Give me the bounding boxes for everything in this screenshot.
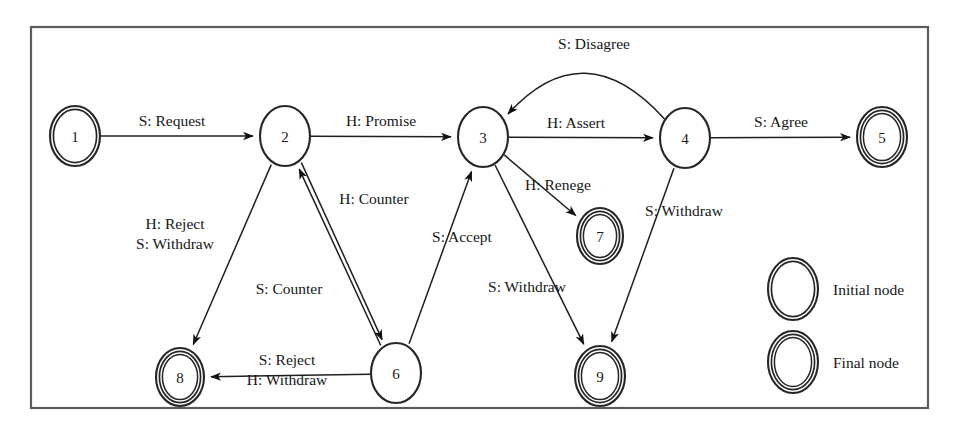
edge-label: H: Renege (525, 176, 591, 193)
edge-2-to-3 (311, 136, 451, 137)
edge-label: S: Withdraw (136, 235, 215, 252)
legend-label: Final node (833, 354, 899, 371)
node-label: 4 (681, 131, 689, 147)
node-label: 7 (596, 229, 604, 245)
legend-initial: Initial node (768, 258, 904, 320)
edge-path (509, 137, 653, 138)
node-8[interactable]: 8 (156, 348, 204, 406)
edge-path (612, 168, 674, 341)
node-2[interactable]: 2 (260, 106, 310, 166)
node-6[interactable]: 6 (371, 343, 421, 403)
node-label: 3 (479, 130, 487, 146)
node-label: 8 (176, 370, 184, 386)
edge-label: S: Counter (256, 280, 324, 297)
edge-path (409, 172, 471, 344)
edge-label: S: Withdraw (488, 278, 567, 295)
edge-4-to-9 (612, 168, 674, 341)
edge-path (508, 73, 664, 119)
edge-path (311, 136, 451, 137)
edge-label: S: Request (139, 112, 206, 129)
legend-layer: Initial nodeFinal node (768, 258, 904, 393)
node-5[interactable]: 5 (857, 107, 907, 167)
legend-final: Final node (768, 331, 899, 393)
legend-initial-ring-2 (771, 261, 814, 316)
legend-label: Initial node (833, 281, 904, 298)
state-diagram: S: RequestH: PromiseH: AssertS: AgreeS: … (0, 0, 959, 434)
edge-label: H: Counter (339, 190, 409, 207)
node-1[interactable]: 1 (50, 106, 100, 166)
node-9[interactable]: 9 (575, 346, 625, 406)
diagram-canvas: S: RequestH: PromiseH: AssertS: AgreeS: … (0, 0, 959, 434)
node-label: 6 (392, 366, 400, 382)
edges-layer: S: RequestH: PromiseH: AssertS: AgreeS: … (101, 35, 850, 388)
edge-label: S: Accept (432, 228, 493, 245)
edge-6-to-3 (409, 172, 471, 344)
node-3[interactable]: 3 (458, 107, 508, 167)
node-4[interactable]: 4 (660, 108, 710, 168)
legend-final-ring-3 (774, 337, 811, 386)
node-label: 1 (71, 129, 79, 145)
node-label: 5 (878, 130, 886, 146)
edge-3-to-4 (509, 137, 653, 138)
node-label: 2 (281, 129, 289, 145)
edge-label: H: Assert (547, 114, 606, 131)
edge-label: S: Agree (754, 113, 808, 130)
edge-2-to-8 (193, 165, 271, 345)
edge-label: H: Withdraw (247, 371, 328, 388)
edge-label: S: Withdraw (645, 202, 724, 219)
edge-4-to-5 (711, 137, 850, 138)
edge-path (711, 137, 850, 138)
edge-label: S: Disagree (558, 35, 630, 52)
node-label: 9 (596, 369, 604, 385)
edge-label: H: Promise (346, 112, 416, 129)
edge-label: H: Reject (146, 215, 206, 232)
edge-4-to-3 (508, 73, 664, 119)
node-7[interactable]: 7 (577, 208, 623, 264)
edge-path (193, 165, 271, 345)
edge-label: S: Reject (259, 351, 316, 368)
